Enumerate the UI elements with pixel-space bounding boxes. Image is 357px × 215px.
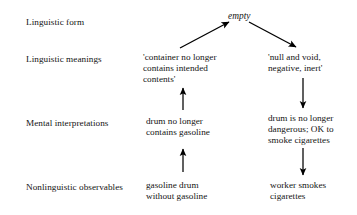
node-mental-right-line-1: drum is no longer (268, 113, 334, 124)
node-mental-left: drum no longer contains gasoline (146, 116, 210, 138)
row-label-linguistic-meanings: Linguistic meanings (26, 54, 102, 65)
node-meaning-left: 'container no longer contains intended c… (143, 52, 217, 86)
node-meaning-left-line-2: contains intended (143, 63, 217, 74)
node-observable-right-line-2: cigarettes (270, 191, 326, 202)
row-label-mental-interpretations: Mental interpretations (26, 118, 109, 129)
row-label-nonlinguistic-observables: Nonlinguistic observables (26, 182, 123, 193)
node-mental-right-line-3: smoke cigarettes (268, 135, 334, 146)
arrow-empty-to-meaning-right (249, 22, 296, 47)
node-meaning-right: 'null and void, negative, inert' (268, 52, 323, 74)
node-meaning-left-line-1: 'container no longer (143, 52, 217, 63)
node-meaning-left-line-3: contents' (143, 74, 217, 85)
node-mental-right: drum is no longer dangerous; OK to smoke… (268, 113, 334, 147)
row-label-linguistic-form: Linguistic form (26, 17, 84, 28)
node-observable-left: gasoline drum without gasoline (146, 180, 207, 202)
node-mental-right-line-2: dangerous; OK to (268, 124, 334, 135)
node-mental-left-line-1: drum no longer (146, 116, 210, 127)
cut-off-caption-text (0, 0, 357, 1)
node-mental-left-line-2: contains gasoline (146, 127, 210, 138)
node-observable-right: worker smokes cigarettes (270, 180, 326, 202)
node-meaning-right-line-1: 'null and void, (268, 52, 323, 63)
flow-diagram: Linguistic form Linguistic meanings Ment… (0, 0, 357, 215)
node-observable-left-line-2: without gasoline (146, 191, 207, 202)
arrow-meaning-left-to-empty (180, 22, 229, 48)
node-empty: empty (228, 11, 251, 22)
node-observable-right-line-1: worker smokes (270, 180, 326, 191)
node-observable-left-line-1: gasoline drum (146, 180, 207, 191)
node-meaning-right-line-2: negative, inert' (268, 63, 323, 74)
